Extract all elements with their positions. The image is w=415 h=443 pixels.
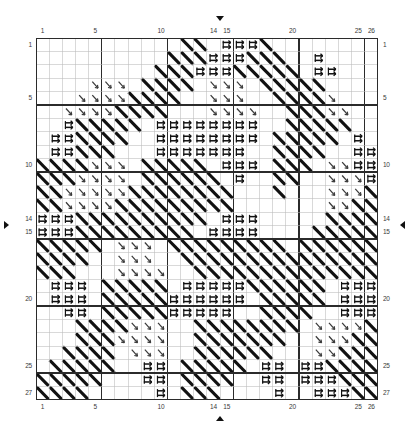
axis-right-label-27: 27 — [383, 390, 397, 397]
axis-left-label-15: 15 — [20, 229, 32, 236]
axis-left-label-27: 27 — [20, 390, 32, 397]
pattern-grid-svg — [36, 38, 378, 400]
axis-bottom-label-15: 15 — [223, 404, 230, 411]
center-marker-bottom — [216, 416, 224, 421]
axis-left-label-5: 5 — [20, 95, 32, 102]
axis-bottom-label-26: 26 — [368, 404, 375, 411]
axis-right-label-25: 25 — [383, 363, 397, 370]
axis-bottom-label-10: 10 — [158, 404, 165, 411]
axis-right-label-1: 1 — [383, 41, 397, 48]
axis-right-label-10: 10 — [383, 162, 397, 169]
axis-top-label-5: 5 — [93, 28, 96, 35]
pattern-grid[interactable] — [36, 38, 378, 400]
axis-top-label-15: 15 — [223, 28, 230, 35]
axis-bottom-label-25: 25 — [355, 404, 362, 411]
center-marker-top — [216, 16, 224, 21]
axis-top-label-25: 25 — [355, 28, 362, 35]
axis-top-label-10: 10 — [158, 28, 165, 35]
center-marker-left — [4, 221, 9, 229]
axis-left-label-14: 14 — [20, 216, 32, 223]
axis-right-label-5: 5 — [383, 95, 397, 102]
axis-top-label-1: 1 — [41, 28, 44, 35]
axis-top-label-20: 20 — [289, 28, 296, 35]
axis-top-label-14: 14 — [210, 28, 217, 35]
axis-bottom-label-20: 20 — [289, 404, 296, 411]
cross-stitch-chart: 15101415202526 15101415202526 1510141520… — [0, 0, 415, 443]
axis-bottom-label-5: 5 — [93, 404, 96, 411]
axis-bottom-label-14: 14 — [210, 404, 217, 411]
axis-left-label-1: 1 — [20, 41, 32, 48]
axis-top-label-26: 26 — [368, 28, 375, 35]
axis-right-label-15: 15 — [383, 229, 397, 236]
axis-bottom-label-1: 1 — [41, 404, 44, 411]
axis-right-label-14: 14 — [383, 216, 397, 223]
center-marker-right — [400, 221, 405, 229]
axis-left-label-25: 25 — [20, 363, 32, 370]
axis-right-label-20: 20 — [383, 296, 397, 303]
axis-left-label-10: 10 — [20, 162, 32, 169]
axis-left-label-20: 20 — [20, 296, 32, 303]
